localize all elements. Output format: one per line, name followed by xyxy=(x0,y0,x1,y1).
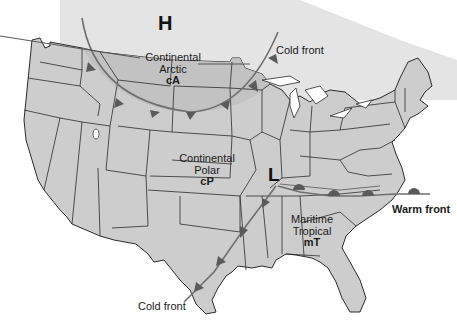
airmass-code: mT xyxy=(282,237,342,249)
airmass-name-line1: Maritime xyxy=(282,214,342,226)
cold-front-south-label: Cold front xyxy=(138,300,186,312)
cold-front-north-label: Cold front xyxy=(276,44,324,56)
airmass-code: cP xyxy=(172,176,242,188)
airmass-label-maritime-tropical: Maritime Tropical mT xyxy=(282,214,342,249)
high-pressure-symbol: H xyxy=(158,12,172,35)
airmass-code: cA xyxy=(138,75,208,87)
airmass-label-continental-polar: Continental Polar cP xyxy=(172,153,242,188)
great-salt-lake xyxy=(93,129,99,139)
low-pressure-symbol: L xyxy=(268,164,280,186)
airmass-name-line1: Continental xyxy=(138,52,208,64)
airmass-label-continental-arctic: Continental Arctic cA xyxy=(138,52,208,87)
airmass-name-line1: Continental xyxy=(172,153,242,165)
warm-front-label: Warm front xyxy=(392,203,450,215)
